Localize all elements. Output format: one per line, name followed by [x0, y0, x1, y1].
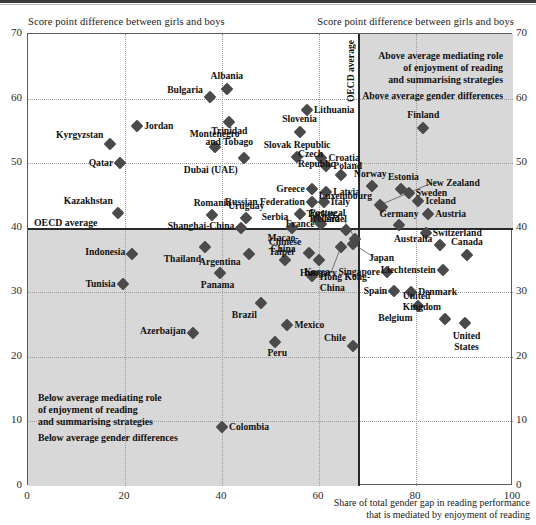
point-label: Kyrgyzstan [56, 130, 103, 141]
annotation-tr-line3: and summarising strategies [388, 74, 503, 85]
data-point[interactable] [439, 313, 452, 326]
point-label: Germany [380, 209, 419, 220]
y-tick-left-50: 50 [0, 155, 22, 167]
point-label: Japan [369, 253, 394, 264]
point-label: Greece [276, 184, 305, 195]
data-point[interactable] [436, 263, 449, 276]
annotation-bl-line2: of enjoyment of reading [38, 404, 138, 415]
page-top-rule-thin [0, 4, 536, 5]
oecd-average-vertical-label: OECD average [345, 40, 356, 102]
point-label: Azerbaijan [140, 326, 186, 337]
point-label: Canada [451, 237, 483, 248]
y-tick-left-40: 40 [0, 220, 22, 232]
data-point[interactable] [104, 137, 117, 150]
point-label: Brazil [232, 309, 257, 320]
y-tick-right-10: 10 [516, 413, 536, 425]
point-label: Bulgaria [167, 84, 203, 95]
annotation-bl-line3: and summarising strategies [38, 416, 153, 427]
point-label: Indonesia [85, 246, 125, 257]
point-label: Australia [394, 233, 432, 244]
point-label: Panama [201, 280, 235, 291]
point-label: Singapore [338, 266, 379, 277]
annotation-top-right: Above average mediating role of enjoymen… [335, 50, 503, 102]
point-label: Tunisia [86, 279, 116, 290]
point-label: Dubai (UAE) [184, 165, 238, 176]
point-label: Montenegro [190, 129, 240, 140]
y-axis-caption-right: Score point difference between girls and… [317, 16, 514, 27]
point-label: Serbia [262, 211, 289, 222]
point-label: Jordan [144, 120, 173, 131]
point-label: Chile [324, 333, 346, 344]
point-label: Portugal [310, 207, 346, 218]
point-label: Romania [194, 198, 231, 209]
point-label: Shanghai-China [168, 220, 235, 231]
point-label: Luxembourg [319, 191, 372, 202]
y-tick-right-40: 40 [516, 220, 536, 232]
point-label: Estonia [388, 172, 419, 183]
point-label: Qatar [89, 158, 114, 169]
data-point[interactable] [305, 183, 318, 196]
point-label: Norway [354, 168, 387, 179]
point-label: Thailand [164, 254, 201, 265]
point-label: Slovenia [282, 114, 317, 125]
point-label: Spain [364, 286, 387, 297]
point-label: Liechtenstein [381, 264, 436, 275]
point-label: Peru [267, 348, 287, 359]
x-axis-title-line2: that is mediated by enjoyment of reading [366, 509, 530, 520]
y-tick-left-10: 10 [0, 413, 22, 425]
x-axis-title-line1: Share of total gender gap in reading per… [334, 497, 530, 508]
point-label: Argentina [199, 256, 241, 267]
point-label: Belgium [378, 313, 412, 324]
point-label: Mexico [294, 319, 324, 330]
x-tick-0: 0 [12, 489, 42, 501]
point-label: Kazakhstan [64, 196, 113, 207]
y-tick-left-70: 70 [0, 26, 22, 38]
plot-area: AlbaniaBulgariaLithuaniaJordanTrinidadan… [27, 33, 512, 485]
point-label: ChineseTaipei [269, 236, 302, 257]
annotation-tr-line4: Above average gender differences [362, 90, 503, 101]
y-tick-left-20: 20 [0, 349, 22, 361]
annotation-bl-line1: Below average mediating role [38, 392, 162, 403]
y-tick-right-20: 20 [516, 349, 536, 361]
chart-canvas: Score point difference between girls and… [0, 0, 536, 525]
y-tick-right-70: 70 [516, 26, 536, 38]
point-label: Uruguay [228, 201, 264, 212]
data-point[interactable] [204, 90, 217, 103]
point-label: Lithuania [314, 105, 355, 116]
oecd-average-horizontal-label: OECD average [32, 217, 99, 228]
data-point[interactable] [388, 285, 401, 298]
point-label: Finland [407, 109, 439, 120]
y-axis-caption-left: Score point difference between girls and… [28, 16, 225, 27]
y-tick-right-60: 60 [516, 91, 536, 103]
annotation-tr-line2: of enjoyment of reading [403, 62, 503, 73]
x-tick-20: 20 [109, 489, 139, 501]
data-point[interactable] [434, 238, 447, 251]
point-label: Iceland [425, 195, 455, 206]
point-label: UnitedStates [453, 331, 481, 352]
point-label: Albania [211, 71, 244, 82]
annotation-tr-line1: Above average mediating role [378, 50, 503, 61]
data-point[interactable] [458, 317, 471, 330]
data-point[interactable] [293, 126, 306, 139]
data-point[interactable] [461, 248, 474, 261]
point-label: Austria [435, 208, 466, 219]
y-tick-left-30: 30 [0, 284, 22, 296]
data-point[interactable] [111, 206, 124, 219]
point-label: UnitedKingdom [403, 291, 441, 312]
y-tick-right-50: 50 [516, 155, 536, 167]
data-point[interactable] [131, 119, 144, 132]
annotation-bottom-left: Below average mediating role of enjoymen… [38, 392, 248, 444]
page-top-rule [0, 0, 536, 3]
y-tick-left-60: 60 [0, 91, 22, 103]
annotation-bl-line4: Below average gender differences [38, 432, 178, 443]
x-axis-title: Share of total gender gap in reading per… [210, 497, 530, 520]
point-label: CzechRepublic [298, 148, 335, 169]
y-tick-right-30: 30 [516, 284, 536, 296]
